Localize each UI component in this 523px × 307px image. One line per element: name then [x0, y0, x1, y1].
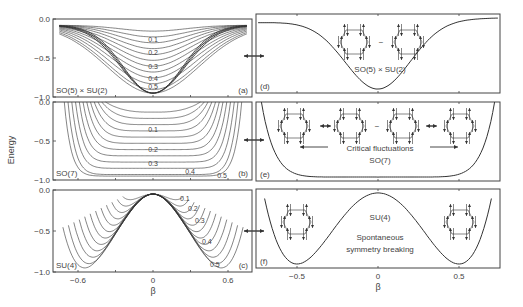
x-axis-label: β: [375, 282, 380, 292]
y-tick-label: 0.0: [39, 186, 51, 195]
y-tick-label: −0.5: [34, 227, 50, 236]
curve: [106, 102, 201, 112]
y-tick-label: −1.0: [34, 268, 50, 277]
group-label: SU(4): [370, 213, 391, 222]
annotation: Spontaneous: [356, 233, 403, 242]
curve: [96, 194, 211, 232]
curve-label: 0.5: [210, 261, 220, 268]
curve: [98, 102, 208, 125]
y-axis-label: Energy: [6, 135, 16, 164]
dash: −: [375, 122, 380, 131]
x-tick-label: 0: [376, 272, 381, 281]
curve-d: [258, 18, 498, 89]
curve-label: 0.1: [148, 36, 158, 43]
curve-label: 0.4: [202, 238, 212, 245]
x-tick-label: 0.5: [453, 272, 465, 281]
spin-hexagon-icon: [443, 204, 477, 240]
panel-label: (e): [260, 170, 270, 179]
spin-hexagon-icon: [280, 204, 314, 240]
y-tick-label: −1.0: [34, 176, 50, 185]
panel-d-frame: [256, 14, 500, 93]
curve-label: 0.2: [148, 49, 158, 56]
curve-label: 0.3: [148, 63, 158, 70]
panel-f-frame: [256, 189, 500, 268]
panel-label: (d): [260, 82, 270, 91]
curve-label: 0.4: [148, 75, 158, 82]
x-tick-label: −0.6: [70, 276, 86, 285]
curve: [123, 194, 183, 200]
spin-hexagon-icon: [391, 24, 425, 60]
curve: [68, 194, 237, 264]
y-tick-label: 0.0: [39, 98, 51, 107]
annotation: Critical fluctuations: [346, 144, 413, 153]
curve-e: [261, 102, 494, 177]
group-label: SO(7): [369, 156, 391, 165]
y-tick-label: −0.5: [34, 137, 50, 146]
spin-hexagon-icon: [337, 24, 371, 60]
y-tick-label: 0.0: [39, 15, 51, 24]
panel-label: (a): [238, 86, 248, 95]
spin-hexagon-icon: [333, 108, 367, 144]
curve: [102, 102, 205, 118]
curve-label: 0.2: [188, 205, 198, 212]
panel-label: (c): [239, 261, 249, 270]
curve-label: 0.3: [148, 160, 158, 167]
group-label: SO(5) × SU(2): [56, 86, 108, 95]
curve: [74, 194, 232, 257]
x-tick-label: 0: [151, 276, 156, 285]
curve-label: 0.4: [185, 168, 195, 175]
group-label: SO(7): [56, 169, 78, 178]
x-axis-label: β: [150, 286, 155, 296]
dash: −: [379, 38, 384, 47]
panel-label: (f): [260, 257, 268, 266]
spin-hexagon-icon: [443, 108, 477, 144]
group-label: SU(4): [56, 261, 77, 270]
panel-label: (b): [238, 169, 248, 178]
curve-label: 0.5: [148, 83, 158, 90]
x-tick-label: 0.6: [222, 276, 234, 285]
panel-c-frame: [53, 190, 252, 272]
curve-label: 0.1: [180, 195, 190, 202]
curve: [117, 194, 188, 206]
x-tick-label: −0.5: [289, 272, 305, 281]
spin-hexagon-icon: [386, 108, 420, 144]
spin-hexagon-icon: [277, 108, 311, 144]
group-label: SO(5) × SU(2): [354, 65, 406, 74]
curve-label: 0.3: [195, 217, 205, 224]
curve-label: 0.2: [148, 146, 158, 153]
curve-label: 0.1: [148, 126, 158, 133]
figure: 0.0−0.5−1.00.0−0.5−1.00.0−0.5−1.00.10.20…: [0, 0, 523, 307]
y-tick-label: −0.5: [34, 54, 50, 63]
curve-label: 0.5: [217, 172, 227, 179]
annotation: symmetry breaking: [346, 245, 414, 254]
